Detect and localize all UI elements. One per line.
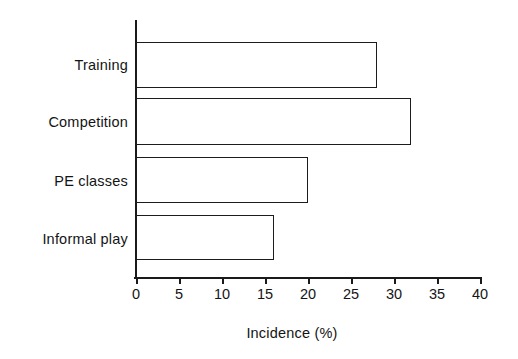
bar-competition — [136, 98, 411, 145]
x-axis-tick-label-30: 30 — [374, 287, 414, 302]
x-axis-tick-25 — [351, 277, 353, 284]
y-axis-category-labels: Training Competition PE classes Informal… — [0, 0, 128, 359]
x-axis-tick-15 — [265, 277, 267, 284]
x-axis-tick-label-20: 20 — [288, 287, 328, 302]
bar-training — [136, 42, 377, 88]
x-axis-tick-label-0: 0 — [116, 287, 156, 302]
x-axis-tick-5 — [179, 277, 181, 284]
x-axis-tick-label-40: 40 — [460, 287, 500, 302]
x-axis-title: Incidence (%) — [0, 325, 518, 341]
x-axis-tick-30 — [394, 277, 396, 284]
y-axis-label-training: Training — [4, 58, 128, 73]
x-axis-tick-label-35: 35 — [417, 287, 457, 302]
x-axis-tick-label-5: 5 — [159, 287, 199, 302]
bar-chart: Training Competition PE classes Informal… — [0, 0, 518, 359]
x-axis-tick-40 — [480, 277, 482, 284]
y-axis-label-competition: Competition — [4, 115, 128, 130]
x-axis-tick-label-10: 10 — [202, 287, 242, 302]
y-axis-label-informal-play: Informal play — [4, 232, 128, 247]
bar-pe-classes — [136, 157, 308, 203]
x-axis-tick-10 — [222, 277, 224, 284]
x-axis-tick-label-15: 15 — [245, 287, 285, 302]
bar-informal-play — [136, 215, 274, 260]
x-axis-tick-label-25: 25 — [331, 287, 371, 302]
x-axis-tick-35 — [437, 277, 439, 284]
x-axis-tick-20 — [308, 277, 310, 284]
x-axis-title-text: Incidence (%) — [246, 325, 337, 341]
x-axis: 0510152025303540 — [134, 277, 482, 278]
x-axis-tick-0 — [136, 277, 138, 284]
plot-area — [136, 20, 480, 277]
y-axis-label-pe-classes: PE classes — [4, 174, 128, 189]
